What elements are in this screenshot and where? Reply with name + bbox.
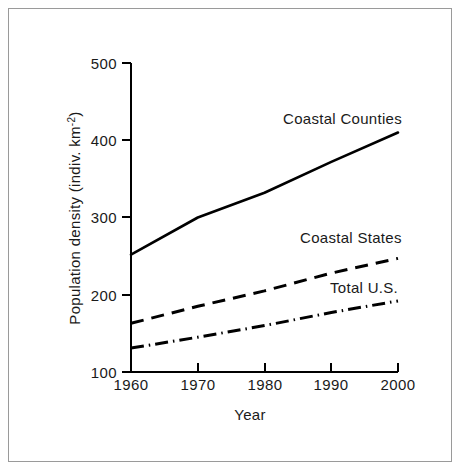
- x-tick-label-1960: 1960: [114, 376, 149, 393]
- svg-text:Population density (indiv. km-: Population density (indiv. km-2): [66, 111, 83, 324]
- x-tick-label-2000: 2000: [381, 376, 416, 393]
- x-tick-label-1990: 1990: [314, 376, 349, 393]
- y-axis-title-main: Population density (indiv. km: [66, 126, 83, 325]
- series-label-coastal-states: Coastal States: [300, 229, 402, 246]
- line-chart-canvas: 500 400 300 200 100 1960 1970 1980 1990 …: [0, 0, 464, 476]
- y-axis-ticks: [122, 63, 131, 372]
- y-tick-label-300: 300: [91, 209, 117, 226]
- x-tick-label-1970: 1970: [181, 376, 216, 393]
- y-axis-title-group: Population density (indiv. km-2): [66, 111, 83, 324]
- y-tick-label-200: 200: [91, 287, 117, 304]
- x-axis-title: Year: [234, 406, 266, 423]
- x-axis-tick-labels: 1960 1970 1980 1990 2000: [114, 376, 416, 393]
- series-label-coastal-counties: Coastal Counties: [283, 110, 402, 127]
- series-line-total-us: [131, 301, 398, 348]
- x-tick-label-1980: 1980: [248, 376, 283, 393]
- x-axis-ticks: [131, 363, 398, 372]
- y-axis-title-close: ): [66, 111, 83, 116]
- chart-figure: 500 400 300 200 100 1960 1970 1980 1990 …: [0, 0, 464, 476]
- series-label-total-us: Total U.S.: [330, 279, 398, 296]
- y-tick-label-400: 400: [91, 132, 117, 149]
- y-tick-label-500: 500: [91, 55, 117, 72]
- y-axis-tick-labels: 500 400 300 200 100: [91, 55, 117, 381]
- y-axis-title-exponent: -2: [66, 117, 77, 127]
